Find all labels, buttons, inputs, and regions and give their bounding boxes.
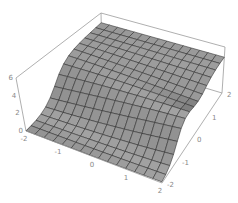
x-tick-label: 2: [158, 187, 162, 195]
x-tick-label: -2: [21, 135, 28, 143]
z-tick-label: 4: [12, 92, 17, 100]
x-tick-label: -1: [55, 148, 62, 156]
y-tick-label: 2: [227, 91, 231, 99]
surface-mesh: [26, 23, 224, 182]
x-tick-label: 0: [90, 161, 94, 169]
z-tick-label: 6: [9, 74, 14, 82]
box-edge-back-right-vertical: [222, 47, 225, 93]
y-tick-label: -1: [182, 159, 189, 167]
box-edge-front-left-vertical: [16, 78, 26, 131]
z-tick-label: 2: [15, 109, 19, 117]
y-tick-label: -2: [167, 181, 174, 189]
y-tick-label: 1: [212, 114, 216, 122]
surface-plot: -2-1012-2-10120246: [0, 0, 238, 203]
y-tick-label: 0: [197, 136, 201, 144]
z-tick-label: 0: [19, 127, 23, 135]
x-tick-label: 1: [124, 174, 128, 182]
